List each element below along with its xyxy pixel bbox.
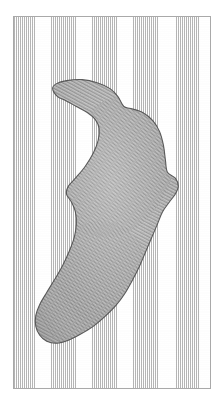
region-tonal-shading: [14, 17, 210, 388]
region-edge-shading: [14, 17, 210, 388]
region-illustration: [14, 17, 210, 388]
figure-root: [0, 0, 223, 402]
plate-frame: [13, 16, 211, 389]
